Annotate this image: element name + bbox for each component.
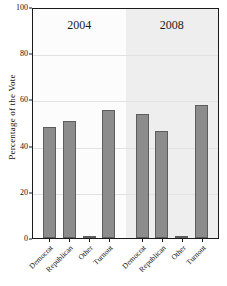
x-axis-tick: Turnout bbox=[196, 239, 209, 286]
y-axis-tick-label: 60 bbox=[20, 96, 28, 104]
x-axis-tick-mark bbox=[162, 239, 163, 242]
bar bbox=[43, 127, 56, 238]
x-axis-tick-mark bbox=[142, 239, 143, 242]
x-axis: DemocratRepublicanOtherTurnout DemocratR… bbox=[32, 239, 219, 286]
x-axis-tick: Republican bbox=[156, 239, 169, 286]
bar-chart-figure: Percentage of the Vote 020406080100 2004… bbox=[0, 0, 227, 286]
x-axis-tick: Turnout bbox=[102, 239, 115, 286]
y-axis-tick-label: 100 bbox=[16, 4, 28, 12]
bar bbox=[155, 131, 168, 238]
bar-group-2008 bbox=[126, 9, 219, 238]
bar bbox=[136, 114, 149, 238]
x-axis-tick-mark bbox=[69, 239, 70, 242]
x-axis-tick-mark bbox=[49, 239, 50, 242]
bar bbox=[83, 236, 96, 238]
x-axis-tick: Republican bbox=[62, 239, 75, 286]
y-axis-tick-label: 40 bbox=[20, 143, 28, 151]
x-axis-tick-mark bbox=[109, 239, 110, 242]
bar bbox=[63, 121, 76, 238]
bar bbox=[175, 236, 188, 238]
x-axis-labels-2008: DemocratRepublicanOtherTurnout bbox=[126, 239, 220, 286]
x-axis-tick-mark bbox=[182, 239, 183, 242]
x-axis-tick-mark bbox=[202, 239, 203, 242]
bar bbox=[102, 110, 115, 238]
x-axis-labels-2004: DemocratRepublicanOtherTurnout bbox=[32, 239, 126, 286]
bar-group-2004 bbox=[33, 9, 126, 238]
y-axis-tick-label: 0 bbox=[24, 235, 28, 243]
y-axis-tick-label: 80 bbox=[20, 50, 28, 58]
panel-title-2004: 2004 bbox=[33, 19, 126, 31]
plot-area: 2004 2008 bbox=[32, 8, 219, 239]
panel-title-2008: 2008 bbox=[126, 19, 219, 31]
y-axis-tick-label: 20 bbox=[20, 189, 28, 197]
x-axis-tick-mark bbox=[89, 239, 90, 242]
bar bbox=[195, 105, 208, 238]
y-axis: 020406080100 bbox=[0, 0, 32, 246]
